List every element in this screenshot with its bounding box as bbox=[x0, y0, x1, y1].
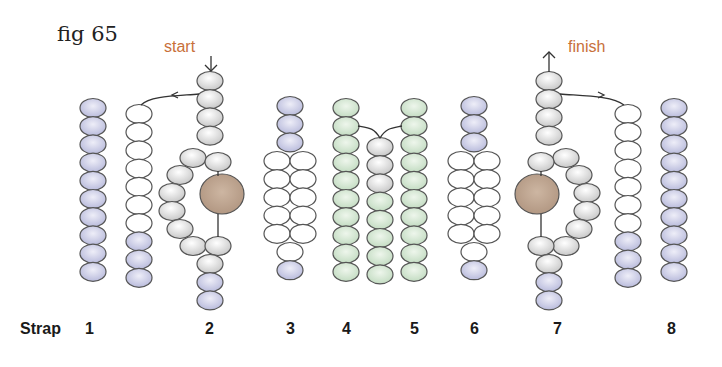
strap-label-2: 2 bbox=[205, 320, 214, 338]
strap-2-bead bbox=[167, 166, 193, 185]
strap-1-bead bbox=[80, 208, 106, 227]
strap-6-bead bbox=[461, 261, 487, 280]
strap-3-bead bbox=[264, 152, 290, 171]
strap-7-bead bbox=[528, 237, 554, 256]
strap-3-bead bbox=[264, 224, 290, 243]
strap-7-bead bbox=[528, 153, 554, 172]
strap-8-bead bbox=[661, 226, 687, 245]
strap-8-bead bbox=[661, 117, 687, 136]
strap-6-bead bbox=[448, 206, 474, 225]
strap-7-focal-bead bbox=[515, 174, 559, 214]
strap-1-bead bbox=[80, 171, 106, 190]
strap-8b-bead bbox=[615, 268, 641, 287]
strap-8b-bead bbox=[615, 196, 641, 215]
strap-4-5-center-bead bbox=[367, 174, 393, 193]
strap-7-bead bbox=[536, 108, 562, 127]
strap-1b-bead bbox=[126, 232, 152, 251]
strap-2-bead bbox=[197, 126, 223, 145]
strap-label-5: 5 bbox=[410, 320, 419, 338]
strap-8b-bead bbox=[615, 232, 641, 251]
strap-3-bead bbox=[277, 243, 303, 262]
strap-8b-bead bbox=[615, 214, 641, 233]
strap-4-bead bbox=[333, 135, 359, 154]
strap-7-bead bbox=[536, 255, 562, 274]
strap-7-bead bbox=[566, 220, 592, 239]
strap-7-bead bbox=[574, 202, 600, 221]
strap-4-5-center-bead bbox=[367, 138, 393, 157]
strap-1b-bead bbox=[126, 268, 152, 287]
strap-2-bead bbox=[205, 237, 231, 256]
strap-8b-bead bbox=[615, 177, 641, 196]
strap-7-bead bbox=[566, 166, 592, 185]
strap-labels-row: Strap 1 2 3 4 5 6 7 8 bbox=[0, 320, 722, 344]
strap-5-bead bbox=[401, 190, 427, 209]
strap-7-bead bbox=[553, 237, 579, 256]
strap-8b-bead bbox=[615, 141, 641, 160]
strap-6-bead bbox=[448, 188, 474, 207]
strap-5-bead bbox=[401, 262, 427, 281]
strap-2-bead bbox=[205, 153, 231, 172]
strap-6-bead bbox=[448, 224, 474, 243]
strap-6-bead bbox=[448, 152, 474, 171]
strap-1b-bead bbox=[126, 105, 152, 124]
strap-8-bead bbox=[661, 244, 687, 263]
strap-6-bead bbox=[461, 243, 487, 262]
strap-2-bead bbox=[159, 184, 185, 203]
strap-3-bead bbox=[277, 261, 303, 280]
strap-8b-bead bbox=[615, 123, 641, 142]
strap-2-bead bbox=[197, 72, 223, 91]
strap-3-bead bbox=[277, 115, 303, 134]
strap-label-4: 4 bbox=[342, 320, 351, 338]
strap-1b-bead bbox=[126, 250, 152, 269]
beading-diagram bbox=[0, 0, 722, 367]
strap-1b-bead bbox=[126, 177, 152, 196]
strap-6-bead bbox=[474, 188, 500, 207]
strap-label-3: 3 bbox=[286, 320, 295, 338]
strap-2-bead bbox=[159, 202, 185, 221]
strap-3-bead bbox=[290, 152, 316, 171]
strap-2-bead bbox=[167, 220, 193, 239]
strap-4-bead bbox=[333, 190, 359, 209]
strap-6-bead bbox=[448, 170, 474, 189]
strap-1-bead bbox=[80, 244, 106, 263]
strap-4-bead bbox=[333, 171, 359, 190]
strap-4-5-center-bead bbox=[367, 229, 393, 248]
strap-1b-bead bbox=[126, 159, 152, 178]
strap-2-bead bbox=[197, 273, 223, 292]
strap-label-6: 6 bbox=[470, 320, 479, 338]
strap-8-bead bbox=[661, 99, 687, 118]
strap-2-bead bbox=[197, 291, 223, 310]
strap-5-bead bbox=[401, 208, 427, 227]
strap-4-bead bbox=[333, 99, 359, 118]
strap-3-bead bbox=[264, 170, 290, 189]
strap-2-focal-bead bbox=[200, 174, 244, 214]
strap-1-bead bbox=[80, 99, 106, 118]
strap-4-bead bbox=[333, 117, 359, 136]
strap-1-bead bbox=[80, 226, 106, 245]
strap-6-bead bbox=[461, 115, 487, 134]
strap-4-bead bbox=[333, 244, 359, 263]
strap-3-bead bbox=[290, 206, 316, 225]
strap-1-bead bbox=[80, 262, 106, 281]
strap-1-bead bbox=[80, 153, 106, 172]
strap-4-bead bbox=[333, 208, 359, 227]
strap-5-bead bbox=[401, 171, 427, 190]
strap-3-bead bbox=[264, 188, 290, 207]
strap-8-bead bbox=[661, 171, 687, 190]
strap-2-bead bbox=[197, 255, 223, 274]
strap-5-bead bbox=[401, 117, 427, 136]
strap-6-bead bbox=[474, 170, 500, 189]
strap-1-bead bbox=[80, 117, 106, 136]
strap-5-bead bbox=[401, 244, 427, 263]
strap-7-bead bbox=[536, 291, 562, 310]
strap-7-bead bbox=[536, 126, 562, 145]
strap-prefix-label: Strap bbox=[20, 320, 61, 338]
strap-8-bead bbox=[661, 190, 687, 209]
strap-1b-bead bbox=[126, 214, 152, 233]
strap-4-bead bbox=[333, 262, 359, 281]
strap-3-bead bbox=[277, 133, 303, 152]
strap-4-5-center-bead bbox=[367, 210, 393, 229]
strap-label-7: 7 bbox=[553, 320, 562, 338]
strap-1b-bead bbox=[126, 196, 152, 215]
strap-7-bead bbox=[553, 149, 579, 168]
